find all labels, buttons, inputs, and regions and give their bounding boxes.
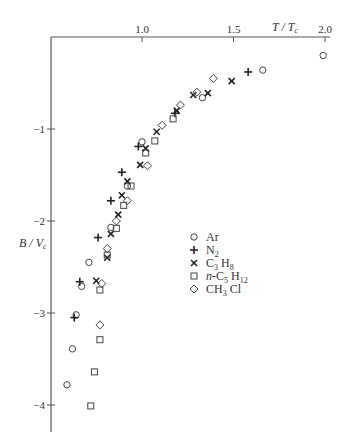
x-axis-title: T / Tc	[272, 20, 298, 35]
diamond-marker-icon	[190, 285, 198, 293]
data-point	[118, 168, 126, 176]
data-point	[112, 217, 120, 225]
x-tick-label: 1.0	[135, 23, 149, 35]
square-marker-icon	[191, 273, 197, 279]
cross-marker-icon	[191, 260, 197, 266]
y-tick-label: −1	[33, 123, 45, 135]
data-points	[64, 52, 327, 409]
legend-item: N2	[190, 243, 219, 259]
legend-item: CH3 Cl	[190, 282, 242, 298]
data-point	[64, 382, 70, 388]
data-point	[320, 52, 326, 58]
data-point	[134, 142, 142, 150]
data-point	[119, 192, 125, 198]
data-point	[124, 178, 130, 184]
data-point	[88, 403, 94, 409]
data-point	[176, 101, 184, 109]
data-point	[143, 162, 151, 170]
data-point	[70, 314, 78, 322]
series-n-c5h12	[88, 116, 176, 409]
circle-marker-icon	[191, 234, 197, 240]
x-tick-label: 2.0	[318, 23, 332, 35]
y-tick-label: −3	[33, 307, 45, 319]
legend-label: Ar	[206, 230, 219, 244]
scatter-chart: 1.01.52.0−1−2−3−4T / TcB / Vc ArN2C3 H8n…	[0, 0, 362, 436]
data-point	[209, 74, 217, 82]
data-point	[154, 129, 160, 135]
data-point	[137, 162, 143, 168]
y-axis-title: B / Vc	[19, 236, 47, 251]
plus-marker-icon	[190, 246, 198, 254]
data-point	[91, 369, 97, 375]
data-point	[96, 321, 104, 329]
y-tick-label: −4	[33, 399, 45, 411]
data-point	[103, 245, 111, 253]
data-point	[94, 234, 102, 242]
legend-item: Ar	[191, 230, 219, 244]
data-point	[86, 259, 92, 265]
x-tick-label: 1.5	[227, 23, 241, 35]
data-point	[76, 278, 84, 286]
data-point	[158, 121, 166, 129]
data-point	[143, 145, 149, 151]
data-point	[205, 90, 211, 96]
data-point	[97, 337, 103, 343]
data-point	[229, 78, 235, 84]
data-point	[107, 197, 115, 205]
y-tick-label: −2	[33, 215, 45, 227]
data-point	[69, 346, 75, 352]
data-point	[152, 138, 158, 144]
series-ch3cl	[96, 74, 217, 329]
data-point	[139, 139, 145, 145]
data-point	[244, 68, 252, 76]
axes: 1.01.52.0−1−2−3−4T / TcB / Vc	[19, 20, 332, 432]
data-point	[260, 67, 266, 73]
legend: ArN2C3 H8n-C5 H12CH3 Cl	[190, 230, 248, 298]
